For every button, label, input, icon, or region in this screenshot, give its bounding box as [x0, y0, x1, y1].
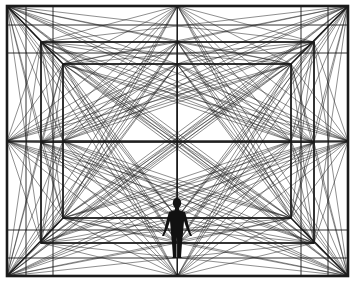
- figure-head: [173, 198, 181, 208]
- geometric-artwork: [0, 0, 355, 284]
